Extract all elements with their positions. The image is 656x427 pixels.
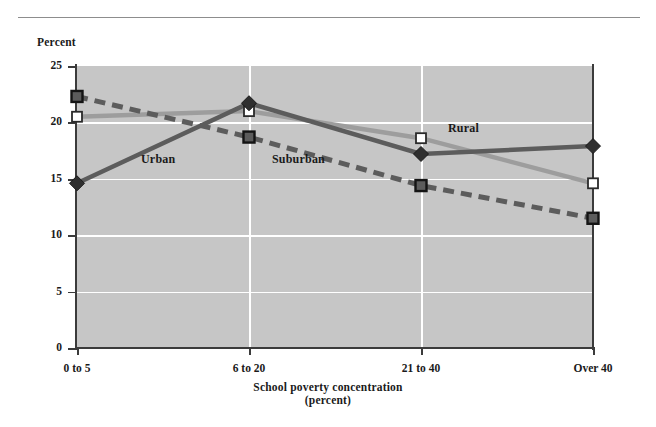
x-tick-label: 6 to 20 — [233, 362, 266, 374]
plot-right-border — [592, 64, 594, 350]
x-tick-mark — [421, 348, 423, 355]
y-tick-label: 5 — [28, 286, 62, 298]
top-divider-rule — [18, 17, 640, 18]
x-axis-line — [75, 347, 595, 349]
gridline-horizontal — [77, 235, 593, 237]
plot-area — [77, 66, 593, 348]
gridline-horizontal — [77, 179, 593, 181]
y-tick-label: 15 — [28, 173, 62, 185]
x-tick-mark — [77, 348, 79, 355]
gridline-horizontal — [77, 122, 593, 124]
y-tick-mark — [68, 235, 76, 237]
chart-figure: Percent 0510152025 0 to 56 to 2021 to 40… — [0, 0, 656, 427]
y-axis-line — [75, 64, 77, 350]
x-tick-label: 21 to 40 — [402, 362, 440, 374]
y-tick-label: 10 — [28, 229, 62, 241]
x-axis-title-line1: School poverty concentration — [0, 381, 656, 393]
series-label-rural: Suburban — [272, 152, 325, 167]
x-tick-label: 0 to 5 — [64, 362, 91, 374]
y-tick-mark — [68, 179, 76, 181]
y-tick-mark — [68, 348, 76, 350]
y-tick-label: 20 — [28, 116, 62, 128]
gridline-vertical — [421, 66, 423, 348]
y-tick-mark — [68, 66, 76, 68]
gridline-horizontal — [77, 292, 593, 294]
y-tick-label: 25 — [28, 60, 62, 72]
gridline-vertical — [249, 66, 251, 348]
x-tick-mark — [593, 348, 595, 355]
y-tick-label: 0 — [28, 342, 62, 354]
y-axis-title: Percent — [37, 36, 76, 48]
series-label-suburban: Rural — [448, 121, 479, 136]
x-tick-label: Over 40 — [573, 362, 612, 374]
y-tick-mark — [68, 292, 76, 294]
x-tick-mark — [249, 348, 251, 355]
x-axis-title-line2: (percent) — [0, 394, 656, 406]
series-label-urban: Urban — [141, 152, 175, 167]
y-tick-mark — [68, 122, 76, 124]
